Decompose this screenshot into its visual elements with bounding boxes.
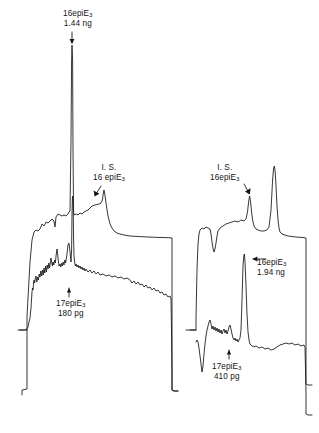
label-right-minor-amount: 410 pg [212,372,242,382]
label-left-minor-analyte: 17epiE3 180 pg [56,299,86,318]
label-left-top-analyte: 16epiE3 1.44 ng [63,9,93,28]
arrow-is-right [244,184,251,194]
label-right-top-compound-subscript: 3 [283,260,286,267]
label-right-top-amount: 1.94 ng [257,268,287,278]
label-left-minor-amount: 180 pg [56,309,86,319]
label-left-minor-compound-subscript: 3 [82,301,85,308]
label-left-is-tag: I. S. [93,163,125,173]
arrow-17epie3-right [227,350,231,359]
label-right-minor-compound-subscript: 3 [238,364,241,371]
arrow-is-left [94,186,101,197]
label-right-top-compound: 16epiE [257,258,283,267]
right-lower-trace [196,254,312,415]
label-right-top-analyte: 16epiE3 1.94 ng [257,258,287,277]
label-left-is-compound-subscript: 3 [121,175,124,182]
left-upper-trace [22,45,178,395]
right-upper-trace [190,166,312,385]
arrow-16epie3-left [70,32,75,44]
chromatogram-figure: 16epiE3 1.44 ng I. S. 16 epiE3 17epiE3 1… [0,0,319,433]
label-right-is-compound: 16epiE [210,173,236,182]
label-left-internal-standard: I. S. 16 epiE3 [93,163,125,182]
arrow-17epie3-left [67,288,71,297]
label-left-top-amount: 1.44 ng [63,19,93,29]
label-right-minor-compound: 17epiE [212,362,238,371]
label-right-minor-analyte: 17epiE3 410 pg [212,362,242,381]
chromatogram-traces [0,0,319,433]
label-right-is-compound-subscript: 3 [236,175,239,182]
label-left-minor-compound: 17epiE [56,299,82,308]
label-left-top-compound-subscript: 3 [89,11,92,18]
label-left-is-compound: 16 epiE [93,173,121,182]
label-right-is-tag: I. S. [210,163,240,173]
label-right-internal-standard: I. S. 16epiE3 [210,163,240,182]
label-left-top-compound: 16epiE [63,9,89,18]
